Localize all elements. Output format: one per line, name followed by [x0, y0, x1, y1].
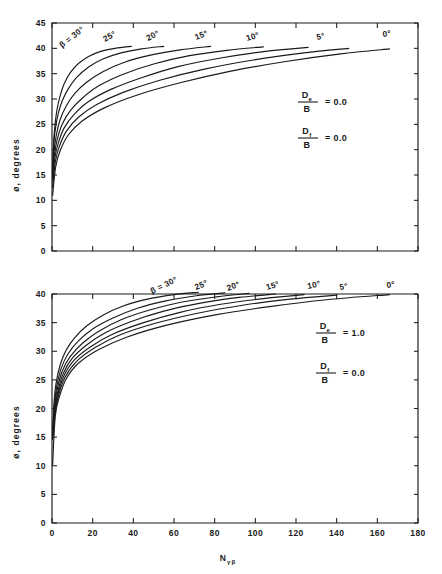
annotation-value-bottom-2: = 0.0 [343, 368, 365, 378]
x-tick-label: 0 [49, 528, 54, 538]
data-curve [53, 293, 225, 436]
annotation-de-over-b-bottom: De B = 1.0 [316, 321, 365, 345]
curve-label: 15° [194, 29, 210, 42]
curves-top [53, 46, 390, 195]
y-axis-title-bottom: ø, degrees [11, 405, 21, 459]
chart-panel-bottom: 0510152025303540020406080100120140160180… [0, 272, 442, 574]
y-tick-label: 5 [41, 221, 46, 231]
y-tick-label: 15 [36, 170, 46, 180]
data-curve [53, 295, 305, 439]
curve-label: 25° [102, 29, 118, 43]
y-tick-label: 10 [36, 461, 46, 471]
chart-panel-top: 051015202530354045 β = 30°25°20°15°10°5°… [0, 0, 442, 282]
x-tick-label: 40 [128, 528, 138, 538]
y-tick-label: 20 [36, 404, 46, 414]
x-tick-label: 160 [370, 528, 385, 538]
y-tick-label: 20 [36, 145, 46, 155]
data-curve [53, 48, 349, 187]
annotation-denominator-bottom-1: B [322, 335, 329, 345]
y-tick-label: 45 [36, 18, 46, 28]
annotation-numerator-top-2: Df [302, 126, 312, 138]
x-tick-label: 180 [410, 528, 425, 538]
data-curve [53, 295, 337, 439]
curve-label: 15° [265, 280, 280, 292]
curve-label: 0° [386, 280, 396, 290]
curve-label: 20° [226, 280, 242, 293]
chart-svg-top: 051015202530354045 β = 30°25°20°15°10°5°… [0, 0, 442, 282]
annotation-numerator-bottom-2: Df [320, 361, 330, 373]
y-tick-label: 35 [36, 318, 46, 328]
x-tick-label: 140 [329, 528, 344, 538]
y-axis-title-top: ø, degrees [11, 138, 21, 192]
y-tick-label: 40 [36, 289, 46, 299]
annotation-numerator-bottom-1: De [320, 321, 331, 333]
curves-bottom [53, 292, 390, 464]
curve-label: 25° [193, 279, 209, 292]
y-tick-label: 0 [41, 246, 46, 256]
x-axis-title-bottom: Nγβ [220, 553, 236, 565]
curve-label: 5° [339, 282, 349, 292]
curve-label: 0° [382, 29, 392, 39]
x-tick-label: 120 [288, 528, 303, 538]
axes-bottom: 0510152025303540020406080100120140160180 [36, 289, 426, 538]
y-tick-label: 15 [36, 432, 46, 442]
annotation-denominator-bottom-2: B [322, 375, 329, 385]
annotation-denominator-top-2: B [304, 140, 311, 150]
y-tick-label: 30 [36, 94, 46, 104]
y-tick-label: 25 [36, 375, 46, 385]
chart-svg-bottom: 0510152025303540020406080100120140160180… [0, 272, 442, 574]
curve-label: 10° [245, 31, 260, 43]
curve-label: β = 30° [149, 275, 179, 296]
y-tick-label: 25 [36, 119, 46, 129]
x-tick-label: 80 [210, 528, 220, 538]
curve-label: β = 30° [58, 25, 86, 50]
x-tick-label: 60 [169, 528, 179, 538]
annotation-de-over-b-top: De B = 0.0 [298, 90, 347, 114]
curve-labels-top: β = 30°25°20°15°10°5°0° [58, 25, 392, 50]
y-tick-label: 0 [41, 518, 46, 528]
curve-label: 5° [316, 32, 326, 42]
data-curve [53, 47, 309, 181]
y-tick-label: 5 [41, 489, 46, 499]
curve-label: 10° [306, 279, 321, 291]
x-tick-label: 20 [88, 528, 98, 538]
data-curve [53, 294, 276, 437]
annotation-numerator-top-1: De [302, 90, 313, 102]
annotation-value-top-1: = 0.0 [325, 97, 347, 107]
annotation-denominator-top-1: B [304, 104, 311, 114]
annotation-value-top-2: = 0.0 [325, 133, 347, 143]
x-tick-label: 100 [248, 528, 263, 538]
y-tick-label: 10 [36, 195, 46, 205]
figure-container: 051015202530354045 β = 30°25°20°15°10°5°… [0, 0, 442, 574]
annotation-value-bottom-1: = 1.0 [343, 328, 365, 338]
curve-labels-bottom: β = 30°25°20°15°10°5°0° [149, 275, 396, 296]
curve-label: 20° [145, 29, 161, 43]
annotation-df-over-b-top: Df B = 0.0 [298, 126, 347, 150]
data-curve [53, 49, 390, 195]
y-tick-label: 30 [36, 346, 46, 356]
y-tick-label: 40 [36, 43, 46, 53]
y-tick-label: 35 [36, 69, 46, 79]
data-curve [53, 295, 390, 465]
annotation-df-over-b-bottom: Df B = 0.0 [316, 361, 365, 385]
